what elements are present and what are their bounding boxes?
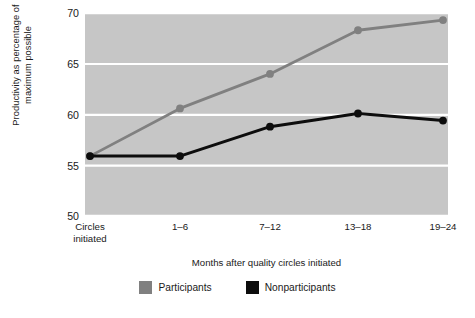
y-tick-label: 50 xyxy=(53,211,79,222)
legend-label: Nonparticipants xyxy=(265,282,336,294)
legend-swatch-icon xyxy=(246,281,259,294)
y-tick-label: 65 xyxy=(53,59,79,70)
data-point xyxy=(266,123,274,131)
x-axis-tick-labels: Circles initiated 1–6 7–12 13–18 19–24 xyxy=(85,221,448,261)
series-participants xyxy=(86,16,447,160)
x-tick-label: Circles initiated xyxy=(45,221,135,245)
x-tick-label: 7–12 xyxy=(225,221,315,233)
data-point xyxy=(86,152,94,160)
y-tick-label: 70 xyxy=(53,8,79,19)
series-line xyxy=(90,113,443,156)
plot-area xyxy=(85,13,448,216)
y-axis-title: Productivity as percentage of maximum po… xyxy=(11,0,45,165)
legend-swatch-icon xyxy=(139,281,152,294)
legend-item-nonparticipants: Nonparticipants xyxy=(246,281,336,294)
chart-legend: Participants Nonparticipants xyxy=(0,281,475,294)
data-point xyxy=(354,110,362,118)
data-point xyxy=(354,26,362,34)
data-point xyxy=(439,16,447,24)
x-tick-label: 19–24 xyxy=(398,221,475,233)
gridlines xyxy=(85,14,448,216)
x-axis-title: Months after quality circles initiated xyxy=(85,257,448,268)
data-point xyxy=(439,117,447,125)
legend-item-participants: Participants xyxy=(139,281,211,294)
plot-canvas xyxy=(85,13,448,216)
chart-figure: Productivity as percentage of maximum po… xyxy=(0,0,475,318)
series-line xyxy=(90,20,443,156)
legend-label: Participants xyxy=(158,282,211,294)
x-tick-label: 1–6 xyxy=(135,221,225,233)
series-nonparticipants xyxy=(86,110,447,160)
data-point xyxy=(176,105,184,113)
data-point xyxy=(266,70,274,78)
y-axis-tick-labels: 70 65 60 55 50 xyxy=(52,0,79,318)
y-tick-label: 55 xyxy=(53,161,79,172)
y-tick-label: 60 xyxy=(53,110,79,121)
x-tick-label: 13–18 xyxy=(313,221,403,233)
data-point xyxy=(176,152,184,160)
data-series-layer xyxy=(86,16,447,160)
